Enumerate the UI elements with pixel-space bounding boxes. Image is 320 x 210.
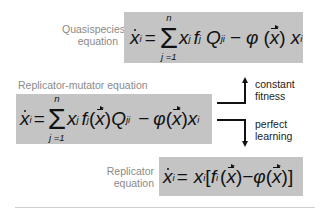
quasispecies-label: Quasispecies equation bbox=[62, 23, 118, 47]
up-label-line2: fitness bbox=[255, 90, 295, 102]
summation-symbol: n Σ j =1 bbox=[160, 14, 178, 62]
replicator-label-line2: equation bbox=[104, 177, 154, 189]
sum-lower-limit: j =1 bbox=[48, 133, 66, 143]
x-dot-i: x bbox=[163, 166, 173, 188]
x-dot-i: x bbox=[130, 27, 140, 49]
replicator-mutator-label: Replicator-mutator equation bbox=[18, 79, 148, 91]
replicator-label-line1: Replicator bbox=[104, 165, 154, 177]
up-label-line1: constant bbox=[255, 78, 295, 90]
arrow-down-horizontal bbox=[217, 119, 245, 121]
arrow-up-horizontal bbox=[217, 102, 245, 104]
arrow-down-icon bbox=[242, 141, 248, 147]
replicator-equation: xi = xi [ fi (x) − φ (x) ] bbox=[163, 158, 293, 196]
arrow-down-vertical bbox=[244, 119, 246, 141]
down-label-line1: perfect bbox=[255, 118, 292, 130]
x-dot-i: x bbox=[20, 108, 30, 130]
quasispecies-label-line2: equation bbox=[62, 35, 118, 47]
sum-lower-limit: j =1 bbox=[160, 52, 178, 62]
replicator-label: Replicator equation bbox=[104, 165, 154, 189]
constant-fitness-label: constant fitness bbox=[255, 78, 295, 102]
quasispecies-equation: xi = n Σ j =1 xj fj Qji − φ (x) xi bbox=[130, 14, 302, 62]
replicator-mutator-equation: xi = n Σ j =1 xj fj (x) Qji − φ (x) xi bbox=[20, 95, 199, 143]
arrow-up-vertical bbox=[244, 82, 246, 104]
perfect-learning-label: perfect learning bbox=[255, 118, 292, 142]
summation-symbol: n Σ j =1 bbox=[48, 95, 66, 143]
arrow-up-icon bbox=[242, 77, 248, 83]
quasispecies-label-line1: Quasispecies bbox=[62, 23, 118, 35]
down-label-line2: learning bbox=[255, 130, 292, 142]
bottom-divider bbox=[15, 207, 315, 208]
